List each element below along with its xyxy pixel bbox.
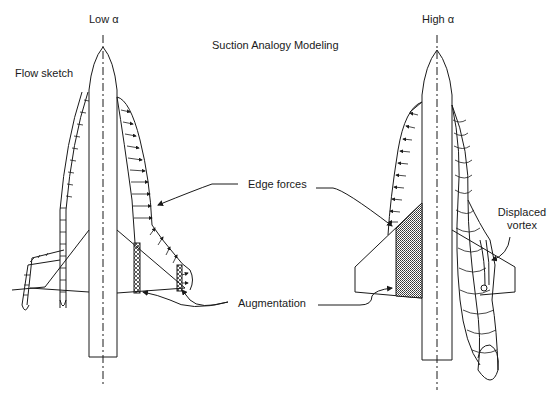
leader-displaced-vortex xyxy=(492,237,510,260)
label-vortex: vortex xyxy=(494,220,550,231)
right-wing-left xyxy=(117,230,185,293)
label-flow-sketch: Flow sketch xyxy=(15,68,73,79)
label-augmentation: Augmentation xyxy=(238,298,306,309)
label-displaced: Displaced xyxy=(494,207,550,218)
diagram-canvas xyxy=(0,0,552,401)
low-alpha-aircraft xyxy=(12,35,185,385)
left-wing-edge-left xyxy=(12,230,89,290)
edge-force-envelope-left xyxy=(117,97,193,290)
displaced-vortex-sheath xyxy=(452,105,498,380)
diagram-title: Suction Analogy Modeling xyxy=(212,40,339,51)
augmentation-shaded xyxy=(396,203,422,298)
leader-edge-forces xyxy=(158,184,392,226)
label-low-alpha: Low α xyxy=(89,14,119,25)
label-displaced-vortex: Displaced vortex xyxy=(494,207,550,231)
label-high-alpha: High α xyxy=(422,14,454,25)
augmentation-strip-1 xyxy=(134,243,140,293)
label-edge-forces: Edge forces xyxy=(248,179,307,190)
high-alpha-aircraft xyxy=(355,35,515,390)
augmentation-strip-2 xyxy=(177,265,182,291)
vortex-coil-left xyxy=(22,92,89,310)
